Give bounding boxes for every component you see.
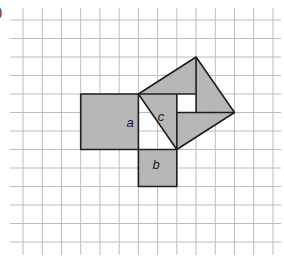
label-a: a xyxy=(126,116,133,129)
label-b: b xyxy=(152,158,159,171)
square-c-center-hole xyxy=(177,94,196,113)
grid-figure xyxy=(0,0,284,264)
label-c: c xyxy=(158,110,165,123)
grid-lines xyxy=(10,8,281,255)
pythagoras-diagram: ) a b c xyxy=(0,0,284,264)
